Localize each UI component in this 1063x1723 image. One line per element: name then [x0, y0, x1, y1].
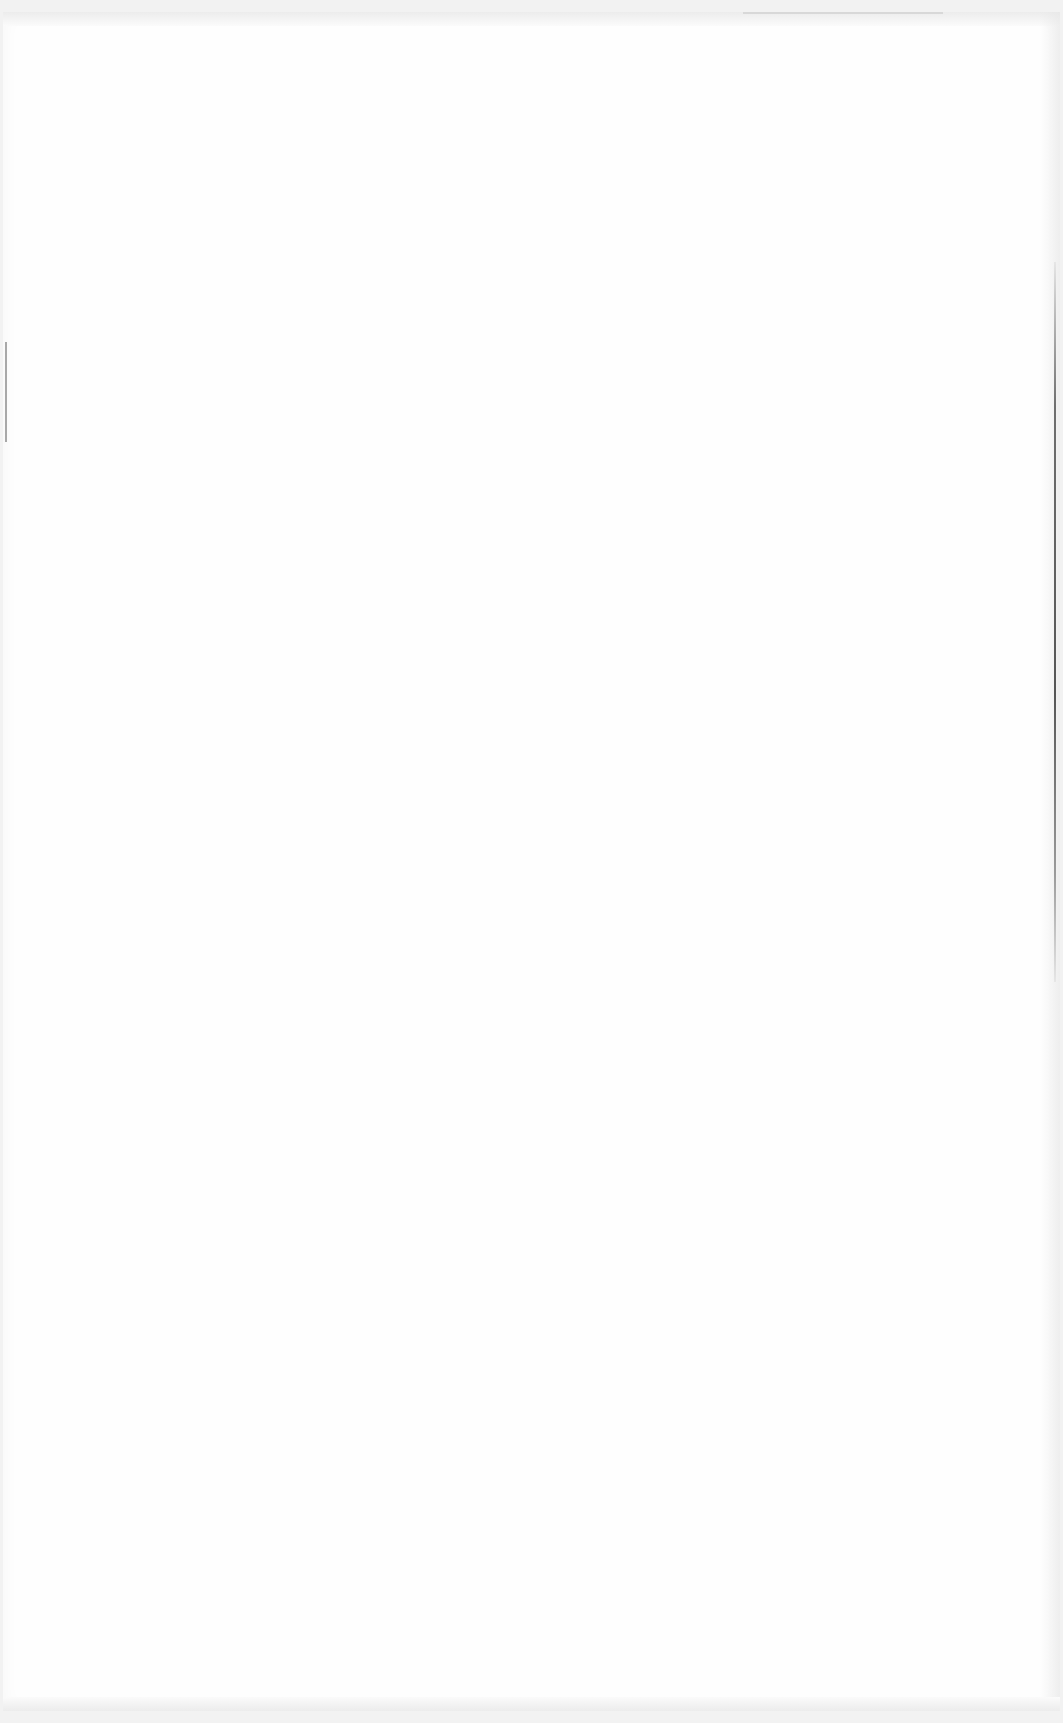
- page-bottom-edge: [3, 1697, 1060, 1711]
- page-left-edge-line: [5, 342, 7, 442]
- page-top-edge: [3, 12, 1060, 26]
- page-right-shadow: [1040, 12, 1060, 1711]
- page-top-accent-line: [743, 12, 943, 14]
- page-content-area: [63, 72, 1000, 1651]
- blank-page: [0, 0, 1063, 1723]
- page-right-edge-line: [1054, 262, 1056, 982]
